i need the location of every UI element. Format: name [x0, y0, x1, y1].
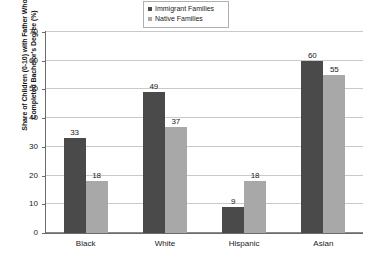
x-axis-category-label: White: [125, 239, 205, 248]
y-axis-tick-mark: [42, 176, 46, 177]
x-axis-category-label: Hispanic: [204, 239, 284, 248]
bar-hispanic-native: [244, 181, 266, 233]
bar-value-label: 33: [60, 128, 90, 137]
legend-item-native-families: Native Families: [148, 14, 224, 23]
y-axis-tick-label: 50: [12, 85, 38, 93]
y-axis-tick-mark: [42, 204, 46, 205]
chart-legend: Immigrant Families Native Families: [143, 1, 229, 28]
x-axis-category-label: Black: [46, 239, 126, 248]
y-axis-tick-label: 70: [12, 28, 38, 36]
legend-label: Native Families: [155, 15, 203, 23]
bar-hispanic-immigrant: [222, 207, 244, 233]
gridline: [46, 31, 363, 32]
legend-swatch-icon: [148, 17, 152, 21]
legend-label: Immigrant Families: [155, 5, 214, 13]
bar-value-label: 55: [319, 65, 349, 74]
legend-item-immigrant-families: Immigrant Families: [148, 4, 224, 13]
y-axis-tick-mark: [42, 118, 46, 119]
x-axis-line: [45, 233, 363, 234]
bar-white-immigrant: [143, 92, 165, 233]
y-axis-tick-label: 20: [12, 172, 38, 180]
y-axis-tick-label: 30: [12, 143, 38, 151]
bar-asian-native: [323, 75, 345, 233]
plot-area: [46, 32, 363, 233]
y-axis-title: Share of Children (0-10) with Father Who…: [17, 0, 41, 160]
y-axis-title-line-1: Share of Children (0-10) with Father Who: [20, 0, 29, 131]
y-axis-tick-label: 60: [12, 57, 38, 65]
bar-black-immigrant: [64, 138, 86, 233]
y-axis-tick-mark: [42, 147, 46, 148]
y-axis-tick-mark: [42, 233, 46, 234]
bar-value-label: 60: [297, 51, 327, 60]
y-axis-tick-mark: [42, 32, 46, 33]
legend-swatch-icon: [148, 7, 152, 11]
y-axis-tick-mark: [42, 61, 46, 62]
x-axis-category-label: Asian: [283, 239, 363, 248]
bar-value-label: 49: [139, 82, 169, 91]
bar-black-native: [86, 181, 108, 233]
bar-white-native: [165, 127, 187, 233]
y-axis-tick-label: 0: [12, 229, 38, 237]
bar-value-label: 18: [82, 171, 112, 180]
y-axis-tick-mark: [42, 89, 46, 90]
bar-value-label: 37: [161, 117, 191, 126]
bar-value-label: 18: [240, 171, 270, 180]
bar-value-label: 9: [218, 197, 248, 206]
y-axis-tick-label: 10: [12, 200, 38, 208]
y-axis-tick-label: 40: [12, 114, 38, 122]
bar-asian-immigrant: [301, 61, 323, 233]
